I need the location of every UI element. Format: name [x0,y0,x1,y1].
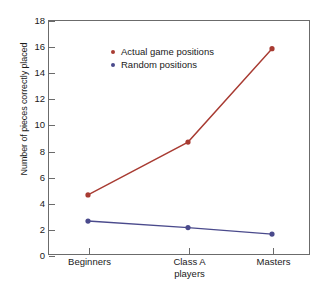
y-tick-12: 12 [49,99,55,100]
legend-marker-icon [111,50,115,54]
y-tick-label: 16 [34,41,45,52]
x-tick-label: Masters [257,256,291,268]
y-tick-label: 8 [40,146,45,157]
y-tick-label: 2 [40,224,45,235]
plot-area: 024681012141618 BeginnersClass AplayersM… [48,20,310,255]
y-axis-title: Number of pieces correctly placed [19,9,29,209]
y-tick-0: 0 [49,256,55,257]
y-tick-label: 6 [40,172,45,183]
y-tick-14: 14 [49,73,55,74]
y-tick-label: 18 [34,15,45,26]
y-tick-mark [49,125,55,126]
x-tick-label-line: Masters [257,256,291,268]
x-tick-mark [189,248,190,254]
y-tick-mark [49,204,55,205]
y-tick-mark [49,152,55,153]
y-tick-label: 12 [34,93,45,104]
y-tick-mark [49,256,55,257]
chart-figure: Number of pieces correctly placed 024681… [0,0,326,297]
legend-item-1: Random positions [111,58,214,71]
y-tick-mark [49,178,55,179]
y-tick-10: 10 [49,125,55,126]
legend-label: Actual game positions [121,46,214,57]
y-tick-label: 4 [40,198,45,209]
x-tick-label-line: players [173,268,205,280]
x-tick-label-line: Class A [173,256,205,268]
y-tick-label: 10 [34,119,45,130]
x-tick-mark [273,248,274,254]
x-tick-masters: Masters [273,248,274,254]
y-tick-mark [49,99,55,100]
x-tick-beginners: Beginners [89,248,90,254]
chart-legend: Actual game positionsRandom positions [111,45,214,71]
y-tick-mark [49,230,55,231]
y-tick-8: 8 [49,152,55,153]
x-tick-label: Class Aplayers [173,256,205,279]
x-tick-class-a-players: Class Aplayers [189,248,190,254]
y-tick-4: 4 [49,204,55,205]
y-tick-6: 6 [49,178,55,179]
legend-marker-icon [111,63,115,67]
legend-item-0: Actual game positions [111,45,214,58]
y-tick-mark [49,21,55,22]
x-tick-label: Beginners [68,256,111,268]
y-tick-16: 16 [49,47,55,48]
y-tick-mark [49,73,55,74]
x-tick-label-line: Beginners [68,256,111,268]
y-tick-label: 14 [34,67,45,78]
y-tick-2: 2 [49,230,55,231]
y-tick-18: 18 [49,21,55,22]
y-tick-mark [49,47,55,48]
y-tick-label: 0 [40,250,45,261]
legend-label: Random positions [121,59,197,70]
x-tick-mark [89,248,90,254]
